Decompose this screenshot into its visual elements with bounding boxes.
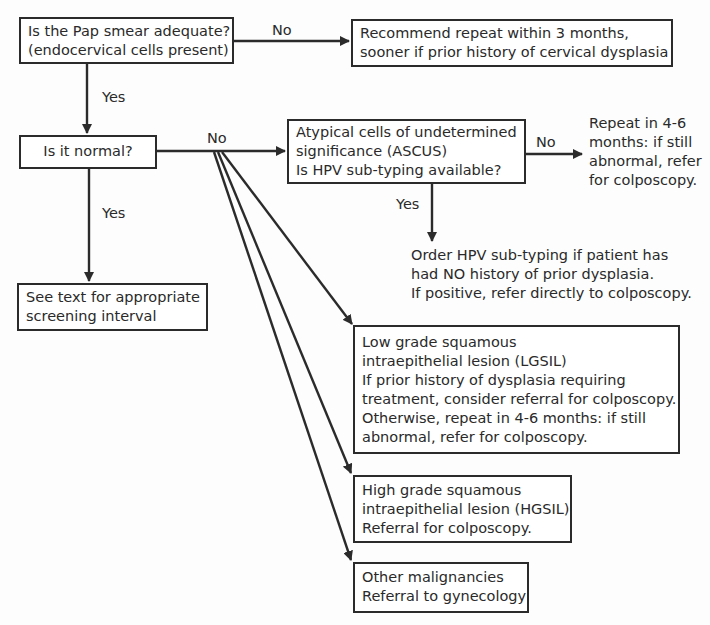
node-text: High grade squamous [362,481,563,500]
node-text: abnormal, refer for colposcopy. [362,428,671,447]
edge-label-adequate-yes: Yes [102,89,125,106]
edge-label-ascus-no: No [536,134,556,151]
edge-label-normal-yes: Yes [102,205,125,222]
node-other-malignancies: Other malignancies Referral to gynecolog… [353,562,529,613]
node-hgsil: High grade squamous intraepithelial lesi… [353,475,572,543]
node-text: sooner if prior history of cervical dysp… [360,43,664,62]
node-text: treatment, consider referral for colposc… [362,390,671,409]
node-text: had NO history of prior dysplasia. [411,265,692,284]
node-text: screening interval [26,307,199,326]
node-text: Other malignancies [362,568,520,587]
node-text: Order HPV sub-typing if patient has [411,246,692,265]
node-text: Recommend repeat within 3 months, [360,24,664,43]
node-is-it-normal: Is it normal? [19,135,157,169]
node-text: Is it normal? [28,142,148,161]
node-order-hpv-subtyping: Order HPV sub-typing if patient has had … [411,246,692,303]
node-text: Low grade squamous [362,333,671,352]
edge-label-adequate-no: No [272,22,292,39]
node-text: See text for appropriate [26,288,199,307]
node-text: months: if still [589,133,702,152]
edge-label-ascus-yes: Yes [396,196,419,213]
edge-normal-no-hgsil [218,152,351,473]
node-text: Atypical cells of undetermined [296,123,517,142]
node-text: intraepithelial lesion (LGSIL) [362,352,671,371]
node-pap-smear-adequate: Is the Pap smear adequate? (endocervical… [19,17,234,64]
node-text: Is the Pap smear adequate? [28,22,225,41]
edge-normal-no-other [214,152,351,560]
node-text: abnormal, refer [589,152,702,171]
node-lgsil: Low grade squamous intraepithelial lesio… [353,325,680,454]
node-ascus-repeat: Repeat in 4-6 months: if still abnormal,… [589,114,702,190]
node-text: (endocervical cells present) [28,41,225,60]
edge-label-normal-no: No [207,130,227,147]
node-screening-interval: See text for appropriate screening inter… [17,283,208,331]
node-recommend-repeat: Recommend repeat within 3 months, sooner… [351,19,673,67]
node-text: intraepithelial lesion (HGSIL) [362,500,563,519]
node-ascus: Atypical cells of undetermined significa… [287,119,526,184]
node-text: for colposcopy. [589,171,702,190]
node-text: Referral to gynecology [362,587,520,606]
node-text: Referral for colposcopy. [362,519,563,538]
node-text: If prior history of dysplasia requiring [362,371,671,390]
node-text: If positive, refer directly to colposcop… [411,284,692,303]
node-text: Is HPV sub-typing available? [296,161,517,180]
node-text: Otherwise, repeat in 4-6 months: if stil… [362,409,671,428]
flowchart-canvas: Is the Pap smear adequate? (endocervical… [0,0,710,625]
node-text: significance (ASCUS) [296,142,517,161]
node-text: Repeat in 4-6 [589,114,702,133]
